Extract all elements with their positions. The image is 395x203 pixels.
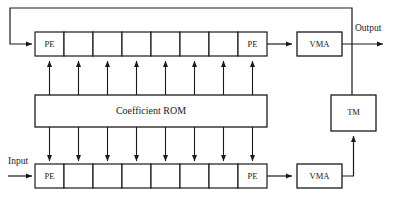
upper-pe-array: PE bbox=[35, 32, 267, 56]
lower-vma-block[interactable]: VMA bbox=[297, 164, 342, 188]
upper-vma-block[interactable]: VMA bbox=[297, 32, 342, 56]
lower-pe-cell[interactable] bbox=[209, 164, 238, 188]
output-label: Output bbox=[355, 23, 382, 33]
diagram-canvas: PE bbox=[0, 0, 395, 203]
lower-pe-cell[interactable] bbox=[122, 164, 151, 188]
rom-to-upper-array-arrows bbox=[50, 61, 253, 95]
lower-pe-cell[interactable] bbox=[93, 164, 122, 188]
lower-pe-array: PE bbox=[35, 164, 267, 188]
lower-pe-cell[interactable] bbox=[151, 164, 180, 188]
block-diagram: PE bbox=[0, 0, 395, 203]
rom-to-lower-array-arrows bbox=[50, 127, 253, 161]
coefficient-rom-label: Coefficient ROM bbox=[116, 105, 186, 116]
tm-block[interactable]: TM bbox=[331, 95, 376, 131]
coefficient-rom-block[interactable]: Coefficient ROM bbox=[35, 95, 267, 127]
upper-pe-cell[interactable]: PE bbox=[238, 32, 267, 56]
lower-pe-cell[interactable] bbox=[64, 164, 93, 188]
tm-label: TM bbox=[347, 107, 360, 117]
input-label: Input bbox=[8, 156, 28, 166]
lower-pe-cell-label: PE bbox=[45, 171, 55, 181]
lower-pe-cell[interactable]: PE bbox=[238, 164, 267, 188]
upper-pe-cell-label: PE bbox=[45, 39, 55, 49]
upper-pe-cell[interactable] bbox=[64, 32, 93, 56]
upper-vma-label: VMA bbox=[310, 39, 331, 49]
upper-pe-cell[interactable] bbox=[122, 32, 151, 56]
lower-pe-cell[interactable]: PE bbox=[35, 164, 64, 188]
lower-vma-to-tm-wire bbox=[342, 136, 354, 176]
upper-pe-cell[interactable] bbox=[151, 32, 180, 56]
lower-pe-cell[interactable] bbox=[180, 164, 209, 188]
lower-vma-label: VMA bbox=[310, 171, 331, 181]
lower-pe-cell-label: PE bbox=[248, 171, 258, 181]
upper-pe-cell-label: PE bbox=[248, 39, 258, 49]
upper-pe-cell[interactable] bbox=[93, 32, 122, 56]
upper-pe-cell[interactable] bbox=[180, 32, 209, 56]
upper-pe-cell[interactable]: PE bbox=[35, 32, 64, 56]
upper-pe-cell[interactable] bbox=[209, 32, 238, 56]
